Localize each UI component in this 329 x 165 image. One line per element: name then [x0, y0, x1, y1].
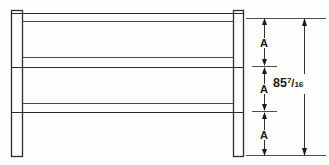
overall-dimension-label: 857/16 — [273, 77, 303, 90]
segment-2-arrow-top — [262, 67, 267, 74]
segment-2-label: A — [260, 84, 268, 95]
overall-arrow-bottom — [302, 148, 307, 156]
segment-1-label: A — [260, 38, 268, 49]
overall-whole-number: 85 — [273, 76, 287, 90]
overall-fraction-denominator: 16 — [294, 80, 303, 89]
rails-group — [12, 14, 244, 113]
segment-3-arrow-bottom — [262, 149, 267, 156]
overall-arrow-top — [302, 18, 307, 26]
top-rail — [12, 14, 244, 22]
overall-fraction-numerator: 7 — [287, 76, 291, 85]
segment-1-arrow-bottom — [262, 59, 267, 66]
segment-3-label: A — [260, 130, 268, 141]
segment-3-arrow-top — [262, 112, 267, 119]
posts-group — [12, 11, 244, 157]
middle-rail — [12, 58, 244, 68]
technical-drawing-canvas: A A A 857/16 — [0, 0, 329, 165]
segment-1-arrow-top — [262, 18, 267, 25]
segment-2-arrow-bottom — [262, 104, 267, 111]
bottom-rail — [12, 104, 244, 113]
right-post — [234, 11, 244, 157]
left-post — [12, 11, 23, 157]
